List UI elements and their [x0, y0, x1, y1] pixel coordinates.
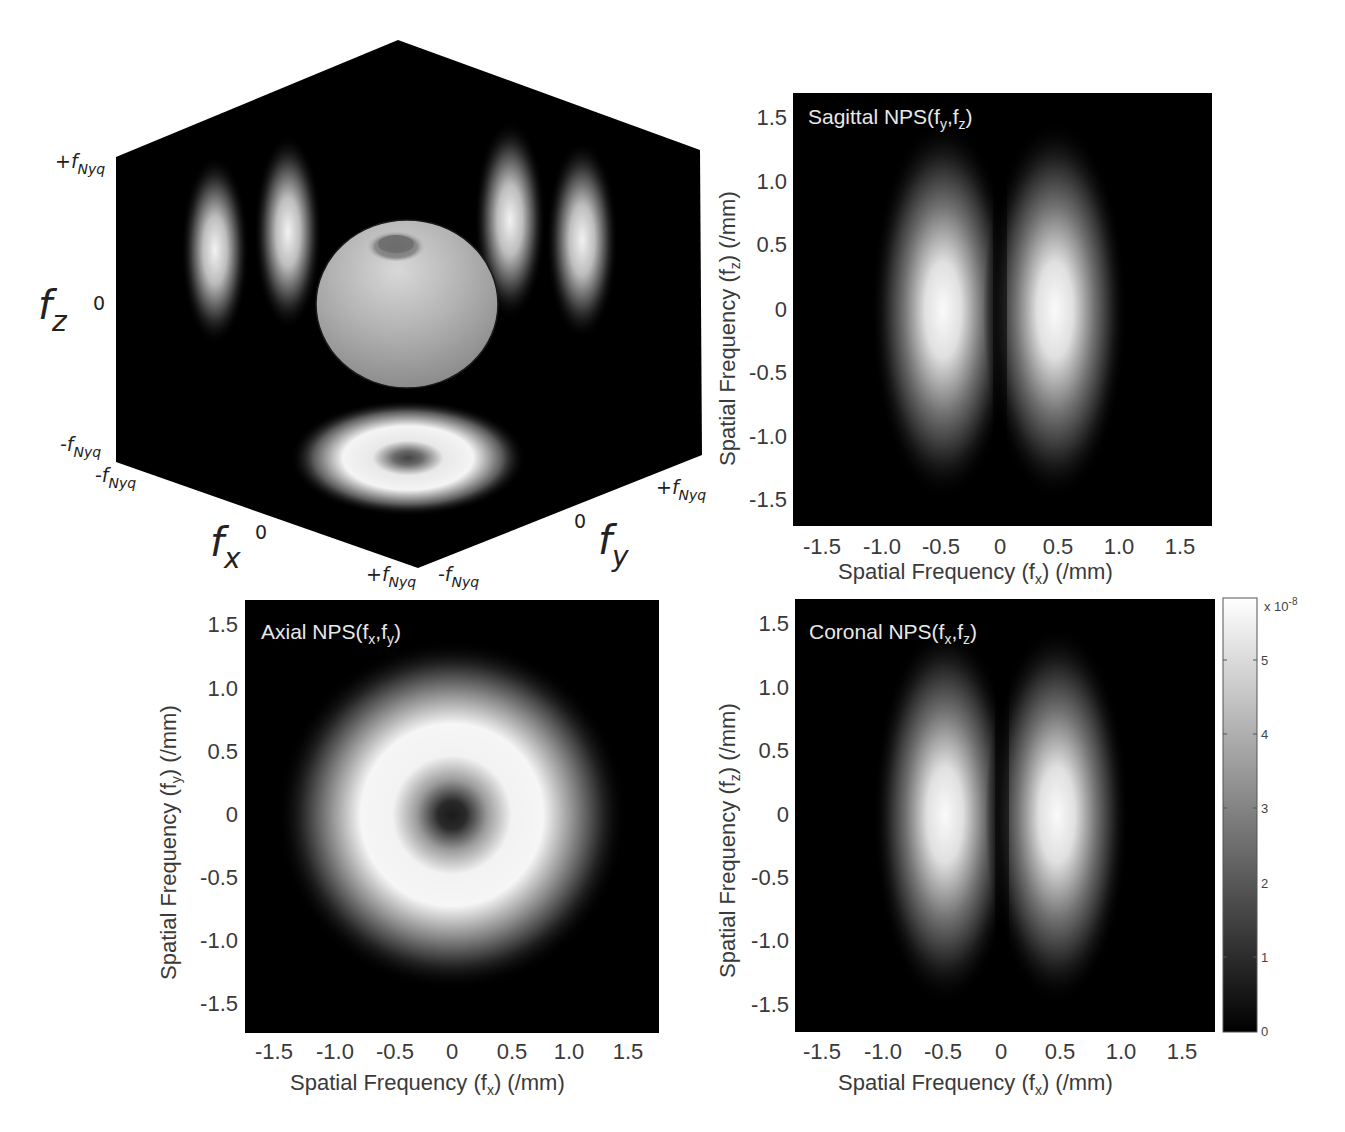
- x-tick: 1.5: [613, 1041, 644, 1063]
- cube-fx-axis-label: fx: [210, 522, 241, 562]
- x-tick: 0: [995, 1041, 1007, 1063]
- x-tick: -0.5: [376, 1041, 414, 1063]
- cube-x-minus-label: -fNyq: [95, 466, 136, 485]
- cube-x-zero-label: 0: [255, 523, 267, 542]
- y-tick: -1.5: [178, 993, 238, 1015]
- x-tick: -1.0: [863, 536, 901, 558]
- x-tick: 0: [994, 536, 1006, 558]
- x-tick: 0.5: [497, 1041, 528, 1063]
- cube-z-minus-label: -fNyq: [60, 435, 101, 454]
- cube-3d-view: +fNyq 0 fz -fNyq -fNyq fx 0 +fNyq -fNyq …: [0, 0, 720, 600]
- colorbar-tick: 1: [1261, 951, 1268, 964]
- cube-y-minus-label: -fNyq: [438, 565, 479, 584]
- cube-fz-axis-label: fz: [38, 285, 67, 325]
- colorbar-tick: 3: [1261, 802, 1268, 815]
- colorbar-tick: 0: [1261, 1025, 1268, 1038]
- x-tick: 1.5: [1165, 536, 1196, 558]
- sagittal-title: Sagittal NPS(fy,fz): [808, 106, 973, 127]
- sagittal-xlabel: Spatial Frequency (fx) (/mm): [838, 561, 1113, 583]
- x-tick: 0: [446, 1041, 458, 1063]
- colorbar: [1223, 598, 1257, 1032]
- cube-x-plus-label: +fNyq: [366, 565, 416, 584]
- y-tick: -1.0: [178, 930, 238, 952]
- x-tick: 1.0: [554, 1041, 585, 1063]
- x-tick: -0.5: [922, 536, 960, 558]
- x-tick: 0.5: [1045, 1041, 1076, 1063]
- y-tick: 1.0: [729, 677, 789, 699]
- x-tick: -1.0: [316, 1041, 354, 1063]
- y-tick: 1.0: [178, 678, 238, 700]
- axial-ylabel: Spatial Frequency (fy) (/mm): [158, 705, 180, 980]
- x-tick: -1.5: [803, 1041, 841, 1063]
- axial-xlabel: Spatial Frequency (fx) (/mm): [290, 1072, 565, 1094]
- x-tick: 1.0: [1104, 536, 1135, 558]
- y-tick: 0: [178, 804, 238, 826]
- y-tick: 1.5: [729, 613, 789, 635]
- x-tick: -1.5: [803, 536, 841, 558]
- x-tick: 1.0: [1106, 1041, 1137, 1063]
- y-tick: 0.5: [178, 741, 238, 763]
- x-tick: -0.5: [924, 1041, 962, 1063]
- colorbar-tick: 2: [1261, 877, 1268, 890]
- y-tick: 1.0: [727, 171, 787, 193]
- x-tick: 1.5: [1167, 1041, 1198, 1063]
- cube-graphic: [0, 0, 720, 600]
- colorbar-tick: 5: [1261, 654, 1268, 667]
- coronal-ylabel: Spatial Frequency (fz) (/mm): [717, 703, 739, 978]
- y-tick: -0.5: [178, 867, 238, 889]
- y-tick: -1.5: [727, 489, 787, 511]
- axial-title: Axial NPS(fx,fy): [261, 621, 401, 642]
- colorbar-exponent: x 10-8: [1264, 600, 1297, 613]
- cube-y-plus-label: +fNyq: [656, 478, 706, 497]
- cube-z-zero-label: 0: [93, 294, 105, 313]
- cube-y-zero-label: 0: [574, 512, 586, 531]
- x-tick: -1.5: [255, 1041, 293, 1063]
- y-tick: 1.5: [727, 107, 787, 129]
- cube-z-plus-label: +fNyq: [55, 152, 105, 171]
- x-tick: 0.5: [1043, 536, 1074, 558]
- y-tick: -1.5: [729, 994, 789, 1016]
- coronal-title: Coronal NPS(fx,fz): [809, 621, 977, 642]
- sagittal-ylabel: Spatial Frequency (fz) (/mm): [717, 191, 739, 466]
- cube-fy-axis-label: fy: [598, 520, 629, 560]
- x-tick: -1.0: [864, 1041, 902, 1063]
- coronal-xlabel: Spatial Frequency (fx) (/mm): [838, 1072, 1113, 1094]
- y-tick: 1.5: [178, 614, 238, 636]
- colorbar-tick: 4: [1261, 728, 1268, 741]
